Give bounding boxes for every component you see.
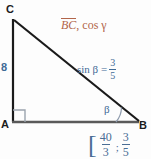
answer-first-numerator: 40	[99, 131, 113, 144]
answer-second-fraction: 3 5	[122, 131, 130, 158]
right-angle-marker-icon	[13, 110, 25, 122]
answer-first-denominator: 3	[102, 144, 110, 158]
overlined-segment-bc: BC	[61, 18, 76, 32]
vertex-label-b: B	[139, 120, 147, 131]
sin-beta-expression: sin β = 3 5	[77, 58, 116, 81]
top-annotation: BC, cos γ	[61, 18, 107, 32]
sin-beta-fraction: 3 5	[109, 58, 116, 81]
geometry-figure-page: C A B 8 β BC, cos γ sin β = 3 5 [ 40 3 ;…	[0, 0, 151, 159]
answer-second-numerator: 3	[122, 131, 130, 144]
vertex-label-c: C	[6, 4, 14, 15]
vertex-label-a: A	[1, 119, 9, 130]
answer-open-bracket: [	[88, 135, 97, 156]
angle-label-beta: β	[104, 104, 110, 115]
answer-strip: [ 40 3 ; 3 5	[88, 131, 130, 158]
answer-second-denominator: 5	[122, 144, 130, 158]
answer-separator: ;	[115, 142, 120, 153]
side-length-label-ac: 8	[1, 62, 7, 73]
sin-beta-denominator: 5	[109, 69, 116, 81]
answer-first-fraction: 40 3	[99, 131, 113, 158]
angle-beta-arc-icon	[116, 108, 122, 123]
sin-beta-numerator: 3	[109, 58, 116, 69]
cos-gamma-text: , cos γ	[76, 19, 106, 32]
sin-beta-label: sin β =	[77, 64, 107, 75]
